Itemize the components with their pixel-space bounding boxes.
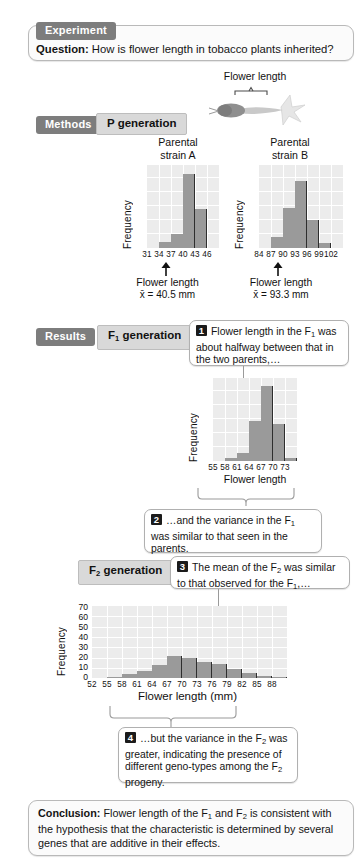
f2-bars	[92, 606, 287, 678]
bar-67	[167, 656, 182, 678]
bar-43	[195, 209, 207, 248]
f1-generation-label: F1 generation	[97, 325, 192, 350]
xtick-93: 93	[290, 250, 299, 259]
f1-plot-area	[213, 378, 297, 461]
f2-ytick-60: 60	[70, 613, 88, 621]
xtick-67: 67	[256, 463, 265, 472]
bar-76	[212, 664, 227, 678]
f2-ytick-20: 20	[70, 653, 88, 661]
chart-f2-generation: Frequency 70 60 50 40 30 20 10 0	[30, 600, 330, 705]
bar-40	[183, 174, 195, 248]
xtick-58: 58	[220, 463, 229, 472]
question-text: How is flower length in tobacco plants i…	[92, 43, 334, 55]
bar-70	[273, 424, 285, 461]
xtick-70: 70	[177, 680, 186, 689]
strain-b-title: Parentalstrain B	[252, 136, 328, 161]
bar-82	[242, 673, 257, 678]
tobacco-flower-illustration	[195, 85, 325, 127]
strain-b-x-axis-label: Flower length	[222, 276, 340, 289]
strain-b-bars	[259, 165, 343, 248]
f1-y-axis-label: Frequency	[188, 382, 199, 462]
xtick-70: 70	[268, 463, 277, 472]
p-generation-label: P generation	[96, 113, 187, 135]
strain-b-mean: x̄ = 93.3 mm	[222, 289, 340, 301]
f1-bars	[213, 378, 297, 461]
bar-99	[319, 243, 331, 248]
xtick-67: 67	[162, 680, 171, 689]
bar-64	[249, 421, 261, 461]
bar-87	[271, 237, 283, 248]
callout-4-number: 4	[125, 732, 136, 743]
strain-b-y-axis-label: Frequency	[234, 169, 245, 249]
bar-96	[307, 220, 319, 248]
xtick-87: 87	[266, 250, 275, 259]
bar-64	[152, 665, 167, 678]
xtick-88: 88	[267, 680, 276, 689]
f2-ytick-0: 0	[70, 673, 88, 681]
f2-generation-label: F2 generation	[78, 560, 173, 585]
flower-length-label: Flower length	[195, 70, 315, 83]
callout-4-text: …but the variance in the F2 was greater,…	[125, 733, 287, 788]
f1-brace	[196, 488, 300, 506]
xtick-102: 102	[324, 250, 338, 259]
results-tab: Results	[36, 328, 95, 346]
strain-a-title: Parentalstrain A	[140, 136, 216, 161]
strain-a-x-axis-label: Flower length	[110, 276, 225, 289]
f2-brace	[108, 706, 238, 728]
f2-ytick-70: 70	[70, 603, 88, 611]
xtick-61: 61	[232, 463, 241, 472]
xtick-82: 82	[237, 680, 246, 689]
callout-1-number: 1	[196, 325, 207, 336]
xtick-85: 85	[252, 680, 261, 689]
chart-parental-strain-b: Frequency 84 87 90 93	[232, 165, 350, 260]
bar-88	[272, 677, 287, 678]
callout-3-text: The mean of the F2 was similar to that o…	[177, 562, 335, 589]
callout-1: 1Flower length in the F1 was about halfw…	[189, 320, 349, 366]
xtick-55: 55	[102, 680, 111, 689]
bar-34	[159, 242, 171, 248]
bar-90	[283, 208, 295, 248]
bar-85	[257, 676, 272, 678]
bar-55	[107, 677, 122, 678]
bar-61	[237, 453, 249, 461]
bar-79	[227, 669, 242, 678]
bar-58	[225, 458, 237, 461]
xtick-34: 34	[154, 250, 163, 259]
f1-x-axis-label: Flower length	[203, 473, 307, 486]
xtick-99: 99	[314, 250, 323, 259]
xtick-52: 52	[87, 680, 96, 689]
bar-73	[285, 458, 297, 461]
xtick-55: 55	[208, 463, 217, 472]
methods-tab: Methods	[36, 116, 101, 134]
xtick-37: 37	[166, 250, 175, 259]
strain-b-mean-arrow	[272, 262, 284, 276]
bar-73	[197, 662, 212, 678]
callout-3-number: 3	[177, 561, 188, 572]
f2-x-axis-label: Flower length (mm)	[80, 690, 295, 703]
callout-1-text: Flower length in the F1 was about halfwa…	[196, 326, 337, 365]
strain-a-mean: x̄ = 40.5 mm	[110, 289, 225, 301]
f2-plot-area	[92, 606, 287, 678]
f2-ytick-10: 10	[70, 663, 88, 671]
f2-ytick-40: 40	[70, 633, 88, 641]
callout-3: 3The mean of the F2 was similar to that …	[170, 556, 350, 589]
strain-b-plot-area	[259, 165, 343, 248]
strain-a-plot-area	[147, 165, 219, 248]
bar-93	[295, 181, 307, 248]
strain-a-bars	[147, 165, 219, 248]
experiment-tab: Experiment	[36, 22, 116, 40]
xtick-61: 61	[132, 680, 141, 689]
bar-67	[261, 386, 273, 461]
f2-y-axis-label: Frequency	[56, 604, 67, 676]
xtick-73: 73	[280, 463, 289, 472]
bar-61	[137, 671, 152, 678]
bar-70	[182, 658, 197, 678]
f2-ytick-50: 50	[70, 623, 88, 631]
xtick-58: 58	[117, 680, 126, 689]
xtick-76: 76	[207, 680, 216, 689]
xtick-64: 64	[147, 680, 156, 689]
callout-2-text: …and the variance in the F1 was similar …	[151, 515, 295, 554]
callout-2: 2…and the variance in the F1 was similar…	[144, 509, 322, 553]
xtick-40: 40	[178, 250, 187, 259]
chart-parental-strain-a: Frequency 31 34 37 40 43 46	[120, 165, 225, 260]
